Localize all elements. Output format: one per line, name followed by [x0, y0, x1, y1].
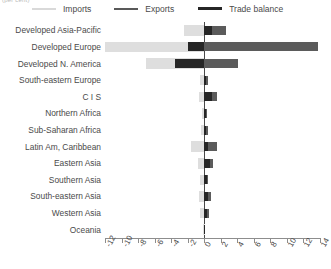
bar-balance [204, 159, 210, 168]
legend-item-imports[interactable]: Imports [32, 4, 91, 14]
category-label: Developed Asia-Pacific [0, 25, 101, 35]
plot-area [105, 22, 320, 238]
category-label: Southern Asia [0, 175, 101, 185]
bar-exports [204, 59, 238, 68]
bar-imports [198, 158, 205, 169]
legend-swatch-exports-icon [114, 8, 138, 10]
x-tick-label: 0 [203, 240, 213, 248]
bar-balance [204, 225, 205, 234]
bar-balance [204, 26, 211, 35]
category-label: Developed N. America [0, 59, 101, 69]
x-tick-label: 2 [220, 240, 230, 248]
bar-balance [204, 76, 206, 85]
bar-balance [204, 142, 208, 151]
bar-balance [204, 109, 206, 118]
bar-imports [191, 141, 204, 152]
legend-swatch-imports-icon [32, 8, 56, 10]
category-label: Northern Africa [0, 108, 101, 118]
x-tick-label: -6 [154, 238, 165, 249]
legend-label-trade-balance: Trade balance [229, 4, 283, 14]
legend-label-imports: Imports [63, 4, 91, 14]
chart-legend: Imports Exports Trade balance [30, 2, 321, 15]
x-tick-label: 4 [236, 240, 246, 248]
category-axis-labels: Developed Asia-PacificDeveloped EuropeDe… [0, 22, 101, 238]
legend-item-trade-balance[interactable]: Trade balance [198, 4, 283, 14]
bar-balance [204, 175, 206, 184]
bar-exports [204, 42, 318, 51]
bar-balance [204, 126, 206, 135]
category-label: South-eastern Europe [0, 75, 101, 85]
chart-unit-caption: (per cent) [2, 0, 30, 3]
bar-balance [204, 92, 212, 101]
legend-swatch-trade-balance-icon [198, 7, 222, 10]
x-tick-label: -2 [187, 238, 198, 249]
category-label: Oceania [0, 225, 101, 235]
bar-balance [188, 42, 205, 51]
x-tick-label: 8 [269, 240, 279, 248]
bar-balance [204, 209, 206, 218]
category-label: Sub-Saharan Africa [0, 125, 101, 135]
x-tick-label: 6 [253, 240, 263, 248]
category-label: C I S [0, 92, 101, 102]
x-tick-label: -8 [137, 238, 148, 249]
category-label: Eastern Asia [0, 158, 101, 168]
x-tick-label: -4 [170, 238, 181, 249]
bar-balance [204, 192, 208, 201]
category-label: Developed Europe [0, 42, 101, 52]
legend-item-exports[interactable]: Exports [114, 4, 174, 14]
bar-balance [175, 59, 204, 68]
category-label: Latin Am, Caribbean [0, 142, 101, 152]
category-label: South-eastern Asia [0, 191, 101, 201]
legend-label-exports: Exports [145, 4, 174, 14]
bar-imports [184, 25, 204, 36]
category-label: Western Asia [0, 208, 101, 218]
